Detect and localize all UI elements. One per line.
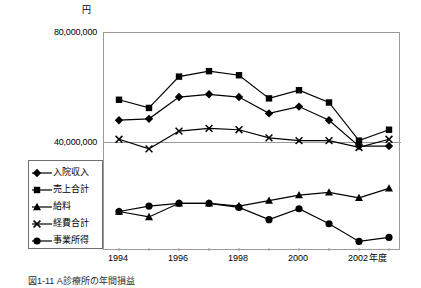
plot-area bbox=[103, 32, 400, 250]
data-point bbox=[296, 87, 302, 93]
x-axis-title: 年度 bbox=[369, 253, 387, 264]
y-axis-tick-mid: 40,000,000 bbox=[21, 137, 97, 148]
data-point bbox=[205, 90, 213, 98]
data-point bbox=[175, 200, 182, 207]
legend-label: 入院収入 bbox=[53, 167, 89, 178]
legend-label: 経費合計 bbox=[53, 218, 89, 229]
data-point bbox=[146, 145, 153, 152]
x-axis-tick-label: 1998 bbox=[218, 253, 258, 264]
data-point bbox=[385, 234, 392, 241]
series-line-x bbox=[119, 128, 389, 148]
data-point bbox=[265, 216, 272, 223]
figure-caption: 図1-11 A診療所の年間損益 bbox=[28, 276, 135, 287]
series-lines bbox=[104, 33, 401, 251]
legend-label: 売上合計 bbox=[53, 184, 89, 195]
data-point bbox=[115, 208, 122, 215]
data-point bbox=[205, 200, 212, 207]
series-line-triangle bbox=[119, 188, 389, 217]
legend-item-1[interactable]: 入院収入 bbox=[31, 164, 100, 181]
triangle-marker-icon bbox=[31, 200, 53, 214]
x-marker-icon bbox=[31, 217, 53, 231]
chart-legend: 入院収入売上合計給料経費合計事業所得 bbox=[28, 160, 103, 249]
data-point bbox=[325, 188, 333, 195]
series-line-diamond bbox=[119, 94, 389, 146]
legend-item-5[interactable]: 事業所得 bbox=[31, 232, 100, 249]
data-point bbox=[236, 72, 242, 78]
series-line-circle bbox=[119, 203, 389, 241]
data-point bbox=[295, 205, 302, 212]
y-axis-unit-label: 円 bbox=[82, 5, 91, 16]
data-point bbox=[265, 109, 273, 117]
data-point bbox=[116, 97, 122, 103]
square-marker-icon bbox=[31, 183, 53, 197]
data-point bbox=[175, 93, 183, 101]
legend-item-4[interactable]: 経費合計 bbox=[31, 215, 100, 232]
data-point bbox=[145, 115, 153, 123]
data-point bbox=[235, 93, 243, 101]
data-point bbox=[116, 136, 123, 143]
data-point bbox=[266, 95, 272, 101]
legend-item-3[interactable]: 給料 bbox=[31, 198, 100, 215]
data-point bbox=[145, 202, 152, 209]
data-point bbox=[386, 127, 392, 133]
data-point bbox=[295, 102, 303, 110]
legend-item-2[interactable]: 売上合計 bbox=[31, 181, 100, 198]
diamond-marker-icon bbox=[31, 166, 53, 180]
circle-marker-icon bbox=[31, 234, 53, 248]
data-point bbox=[326, 99, 332, 105]
data-point bbox=[146, 105, 152, 111]
legend-label: 事業所得 bbox=[53, 235, 89, 246]
data-point bbox=[176, 73, 182, 79]
data-point bbox=[356, 137, 362, 143]
data-point bbox=[115, 116, 123, 124]
x-axis-tick-label: 2000 bbox=[278, 253, 318, 264]
x-axis-tick-label: 1996 bbox=[158, 253, 198, 264]
data-point bbox=[325, 220, 332, 227]
data-point bbox=[235, 204, 242, 211]
x-axis-tick-label: 1994 bbox=[98, 253, 138, 264]
data-point bbox=[386, 136, 393, 143]
y-axis-tick-top: 80,000,000 bbox=[21, 27, 97, 38]
x-axis-tick-labels: 19941996199820002002 bbox=[103, 253, 400, 267]
data-point bbox=[385, 184, 393, 191]
data-point bbox=[206, 68, 212, 74]
data-point bbox=[355, 238, 362, 245]
legend-label: 給料 bbox=[53, 201, 71, 212]
chart-figure: 円 80,000,000 40,000,000 1994199619982000… bbox=[0, 0, 421, 288]
data-point bbox=[385, 142, 393, 150]
